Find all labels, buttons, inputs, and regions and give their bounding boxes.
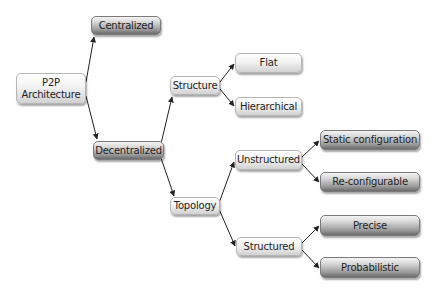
node-flat: Flat	[235, 53, 302, 73]
edge-structured-precise	[302, 226, 319, 243]
edge-p2p-decentralized	[86, 96, 97, 139]
edge-decentralized-topology	[160, 155, 174, 196]
node-label: Structure	[173, 80, 218, 92]
edge-structure-hierarchical	[220, 89, 234, 106]
edge-topology-structured	[219, 209, 235, 246]
node-label: Probabilistic	[341, 262, 399, 274]
edge-unstructured-reconfigurable	[302, 164, 319, 182]
node-label: Centralized	[99, 20, 154, 32]
node-structured: Structured	[236, 237, 302, 256]
node-p2p-line1: P2P	[42, 77, 60, 89]
edge-topology-unstructured	[219, 162, 234, 203]
node-label: Topology	[174, 200, 217, 212]
edge-decentralized-structure	[160, 97, 172, 148]
node-hierarchical: Hierarchical	[235, 97, 302, 116]
node-label: Hierarchical	[240, 101, 297, 113]
node-p2p-line2: Architecture	[22, 89, 81, 101]
node-re-configurable: Re-configurable	[320, 172, 420, 192]
node-decentralized: Decentralized	[93, 141, 164, 160]
node-structure: Structure	[170, 76, 220, 95]
node-label: Structured	[244, 241, 295, 253]
node-label: Unstructured	[237, 154, 300, 166]
node-unstructured: Unstructured	[235, 150, 302, 170]
node-label: Flat	[260, 57, 278, 69]
edge-structure-flat	[220, 64, 234, 82]
edge-unstructured-static	[302, 141, 319, 157]
node-label: Static configuration	[323, 134, 417, 146]
diagram-canvas: P2P Architecture Centralized Decentraliz…	[0, 0, 440, 295]
node-precise: Precise	[320, 215, 420, 236]
node-static-configuration: Static configuration	[320, 130, 420, 150]
node-p2p-architecture: P2P Architecture	[16, 73, 86, 104]
node-topology: Topology	[170, 197, 220, 215]
edge-structured-probabilistic	[302, 250, 319, 268]
edge-p2p-centralized	[86, 37, 94, 82]
node-label: Re-configurable	[332, 176, 408, 188]
node-centralized: Centralized	[91, 16, 161, 35]
node-label: Decentralized	[95, 145, 162, 157]
node-probabilistic: Probabilistic	[320, 257, 420, 278]
node-label: Precise	[353, 220, 387, 232]
